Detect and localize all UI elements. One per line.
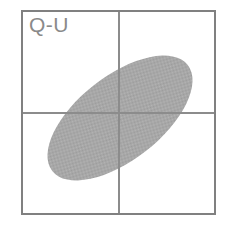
panel-label: Q-U xyxy=(29,13,69,36)
qu-plot-svg: Q-U xyxy=(0,0,237,228)
qu-correlation-panel: Q-U xyxy=(0,0,237,228)
